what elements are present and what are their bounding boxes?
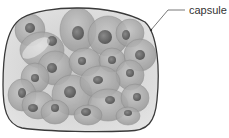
nucleus xyxy=(18,88,26,98)
nucleus xyxy=(72,26,84,40)
nucleus xyxy=(31,74,39,82)
nucleus xyxy=(47,63,57,73)
nucleus xyxy=(122,30,130,40)
capsule-label: capsule xyxy=(189,4,227,16)
capsule-cell-diagram xyxy=(0,0,229,138)
nucleus xyxy=(98,30,112,44)
leader-dot xyxy=(150,29,152,31)
nucleus xyxy=(81,108,91,116)
nucleus xyxy=(93,76,103,84)
nucleus xyxy=(51,104,59,112)
capsule-leader-line xyxy=(151,10,185,30)
nucleus xyxy=(133,93,141,101)
nucleus xyxy=(28,104,38,112)
nucleus xyxy=(126,69,134,77)
nucleus xyxy=(135,50,145,60)
nucleus xyxy=(108,56,116,64)
nucleus xyxy=(25,23,35,33)
nucleus xyxy=(78,57,86,65)
nucleus xyxy=(64,86,76,98)
nucleus xyxy=(105,96,115,104)
nucleus xyxy=(124,110,132,116)
